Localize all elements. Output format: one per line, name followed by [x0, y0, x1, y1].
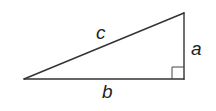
label-vertical-leg-a: a — [191, 38, 202, 59]
triangle-figure: c a b — [0, 0, 216, 111]
right-triangle-diagram: c a b — [0, 0, 216, 111]
label-horizontal-leg-b: b — [102, 81, 113, 102]
right-angle-marker — [172, 67, 184, 79]
label-hypotenuse-c: c — [96, 22, 106, 43]
